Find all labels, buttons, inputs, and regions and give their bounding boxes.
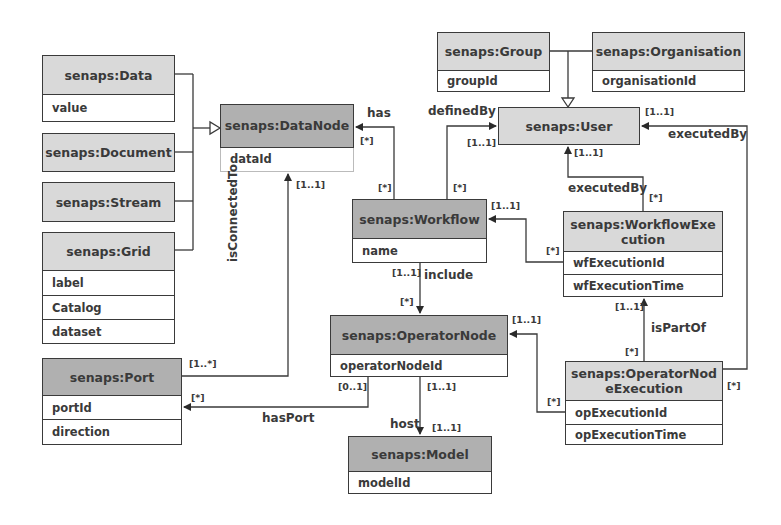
- attribute-portid: portId: [43, 396, 181, 420]
- mult-wfexec-workflow-to: [1..1]: [491, 200, 520, 211]
- class-datanode[interactable]: senaps:DataNode dataId: [220, 104, 354, 172]
- class-port[interactable]: senaps:Port portId direction: [42, 358, 182, 445]
- mult-wfexec-workflow-from: [*]: [546, 245, 560, 256]
- attribute-wfexecutiontime: wfExecutionTime: [564, 275, 722, 296]
- mult-definedby-to: [1..1]: [467, 137, 496, 148]
- attribute-value: value: [43, 95, 174, 121]
- class-workflowexecution-name-line1: senaps:WorkflowExe: [570, 217, 716, 232]
- mult-ispartof-from: [*]: [625, 346, 639, 357]
- mult-has-to: [*]: [360, 135, 374, 146]
- class-workflow-name: senaps:Workflow: [353, 200, 486, 239]
- class-data-name: senaps:Data: [43, 56, 174, 95]
- class-data[interactable]: senaps:Data value: [42, 55, 175, 122]
- mult-definedby-from: [*]: [453, 182, 467, 193]
- mult-isconnectedto-to: [1..1]: [296, 179, 325, 190]
- attribute-organisationid: organisationId: [593, 71, 744, 91]
- attribute-opexecutionid: opExecutionId: [566, 401, 722, 425]
- uml-diagram-canvas: senaps:Data value senaps:Document senaps…: [0, 0, 781, 525]
- attribute-groupid: groupId: [438, 71, 549, 91]
- class-grid-name: senaps:Grid: [43, 233, 174, 271]
- class-workflowexecution-name: senaps:WorkflowExe cution: [564, 212, 722, 252]
- class-operatornodeexecution-name-line2: eExecution: [605, 381, 683, 396]
- attribute-wfexecutionid: wfExecutionId: [564, 252, 722, 275]
- relation-label-host: host: [390, 417, 420, 431]
- class-grid[interactable]: senaps:Grid label Catalog dataset: [42, 232, 175, 344]
- mult-opexec-opnode-to: [1..1]: [512, 314, 541, 325]
- mult-executedby-wf-to: [1..1]: [574, 147, 603, 158]
- attribute-catalog: Catalog: [43, 296, 174, 320]
- relation-label-executedby-op: executedBy: [668, 127, 747, 141]
- relation-label-isconnectedto: isConnectedTo: [226, 164, 240, 262]
- mult-hasport-to: [*]: [191, 392, 205, 403]
- mult-isconnectedto-from: [1..*]: [189, 358, 216, 369]
- class-document-name: senaps:Document: [43, 134, 174, 171]
- mult-executedby-wf-from: [*]: [649, 192, 663, 203]
- mult-include-to: [*]: [400, 296, 414, 307]
- attribute-operatornodeid: operatorNodeId: [331, 355, 507, 376]
- class-operatornode-name: senaps:OperatorNode: [331, 316, 507, 355]
- attribute-dataset: dataset: [43, 320, 174, 343]
- class-operatornodeexecution-name: senaps:OperatorNod eExecution: [566, 362, 722, 401]
- class-stream[interactable]: senaps:Stream: [42, 182, 175, 222]
- class-model-name: senaps:Model: [349, 437, 491, 472]
- class-datanode-name: senaps:DataNode: [220, 104, 355, 148]
- attribute-modelid: modelId: [349, 472, 491, 493]
- class-model[interactable]: senaps:Model modelId: [348, 436, 492, 494]
- class-port-name: senaps:Port: [43, 359, 181, 396]
- class-document[interactable]: senaps:Document: [42, 133, 175, 172]
- class-workflowexecution-name-line2: cution: [621, 232, 665, 247]
- attribute-opexecutiontime: opExecutionTime: [566, 425, 722, 444]
- class-workflowexecution[interactable]: senaps:WorkflowExe cution wfExecutionId …: [563, 211, 723, 297]
- class-group[interactable]: senaps:Group groupId: [437, 32, 550, 92]
- attribute-label: label: [43, 271, 174, 296]
- relation-label-hasport: hasPort: [262, 411, 314, 425]
- class-organisation[interactable]: senaps:Organisation organisationId: [592, 32, 745, 92]
- mult-executedby-op-to: [1..1]: [645, 106, 674, 117]
- mult-host-to: [1..1]: [432, 422, 461, 433]
- class-user-name: senaps:User: [499, 108, 639, 144]
- class-operatornodeexecution-name-line1: senaps:OperatorNod: [571, 366, 717, 381]
- attribute-dataid: dataId: [221, 148, 353, 170]
- mult-ispartof-to: [1..1]: [615, 301, 644, 312]
- class-operatornode[interactable]: senaps:OperatorNode operatorNodeId: [330, 315, 508, 377]
- mult-has-from: [*]: [378, 182, 392, 193]
- attribute-name: name: [353, 239, 486, 262]
- relation-label-include: include: [424, 268, 473, 282]
- class-user[interactable]: senaps:User: [498, 107, 640, 145]
- relation-label-definedby: definedBy: [428, 104, 496, 118]
- class-group-name: senaps:Group: [438, 33, 549, 71]
- mult-hasport-from: [0..1]: [338, 381, 367, 392]
- mult-host-from: [1..1]: [427, 381, 456, 392]
- mult-executedby-op-from: [*]: [727, 380, 741, 391]
- mult-include-from: [1..1]: [392, 267, 421, 278]
- class-operatornodeexecution[interactable]: senaps:OperatorNod eExecution opExecutio…: [565, 361, 723, 445]
- class-organisation-name: senaps:Organisation: [593, 33, 744, 71]
- relation-label-has: has: [367, 106, 391, 120]
- relation-label-ispartof: isPartOf: [651, 321, 706, 335]
- mult-opexec-opnode-from: [*]: [547, 396, 561, 407]
- class-stream-name: senaps:Stream: [43, 183, 174, 221]
- class-workflow[interactable]: senaps:Workflow name: [352, 199, 487, 263]
- relation-label-executedby-wf: executedBy: [568, 181, 647, 195]
- attribute-direction: direction: [43, 420, 181, 443]
